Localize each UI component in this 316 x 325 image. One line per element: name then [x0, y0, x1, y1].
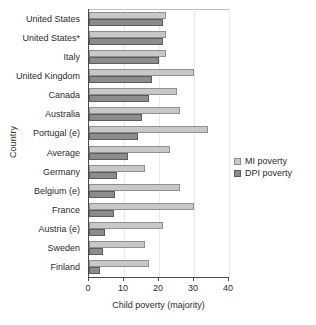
bar [89, 146, 170, 153]
legend-swatch-icon-mi [234, 158, 241, 165]
y-axis-tick-label: France [52, 205, 80, 215]
bar [89, 76, 152, 83]
bar-chart: Country United StatesUnited States*Italy… [0, 0, 316, 325]
bar [89, 172, 117, 179]
bar [89, 31, 166, 38]
x-axis-tick [193, 277, 194, 281]
y-axis-tick-label: Italy [63, 52, 80, 62]
y-axis-tick-label: Belgium (e) [34, 186, 80, 196]
x-axis-tick [88, 277, 89, 281]
bar [89, 57, 159, 64]
x-axis-tick [158, 277, 159, 281]
y-axis-tick-labels: United StatesUnited States*ItalyUnited K… [0, 9, 84, 277]
bar [89, 260, 149, 267]
x-axis-tick-label: 0 [85, 283, 90, 293]
y-axis-tick-label: Germany [43, 167, 80, 177]
bar [89, 95, 149, 102]
y-axis-tick-label: Average [47, 148, 80, 158]
y-axis-tick-label: Sweden [47, 243, 80, 253]
x-axis-tick-label: 40 [223, 283, 233, 293]
y-axis-tick-label: United Kingdom [16, 71, 80, 81]
bar [89, 203, 194, 210]
bar [89, 248, 103, 255]
gridline [194, 9, 195, 277]
bar [89, 50, 166, 57]
legend-label-mi: MI poverty [245, 156, 287, 166]
y-axis-tick-label: Portugal (e) [33, 128, 80, 138]
bar [89, 126, 208, 133]
bar [89, 210, 114, 217]
bar [89, 12, 166, 19]
bar [89, 267, 100, 274]
bar [89, 38, 163, 45]
bar [89, 107, 180, 114]
bar [89, 241, 145, 248]
legend-swatch-icon-dpi [234, 170, 241, 177]
x-axis-tick-label: 30 [188, 283, 198, 293]
y-axis-tick-label: Finland [50, 262, 80, 272]
plot-area [88, 9, 229, 277]
bar [89, 133, 138, 140]
bar [89, 69, 194, 76]
bar [89, 114, 142, 121]
legend-item-mi-poverty: MI poverty [234, 155, 292, 167]
y-axis-tick-label: Austria (e) [38, 224, 80, 234]
x-axis-title: Child poverty (majority) [88, 300, 229, 310]
chart-legend: MI poverty DPI poverty [234, 155, 292, 179]
x-axis-tick [123, 277, 124, 281]
gridline [229, 9, 230, 277]
y-axis-tick-label: Australia [45, 109, 80, 119]
bar [89, 19, 163, 26]
legend-item-dpi-poverty: DPI poverty [234, 167, 292, 179]
x-axis-tick-label: 20 [153, 283, 163, 293]
plot-inner [89, 9, 229, 277]
bar [89, 191, 115, 198]
bar [89, 88, 177, 95]
x-axis-tick-label: 10 [118, 283, 128, 293]
y-axis-tick-label: Canada [48, 90, 80, 100]
bar [89, 222, 163, 229]
bar [89, 229, 105, 236]
legend-label-dpi: DPI poverty [245, 168, 292, 178]
y-axis-tick-label: United States [26, 14, 80, 24]
x-axis-tick [228, 277, 229, 281]
bar [89, 165, 145, 172]
bar [89, 184, 180, 191]
bar [89, 153, 128, 160]
y-axis-tick-label: United States* [22, 33, 80, 43]
